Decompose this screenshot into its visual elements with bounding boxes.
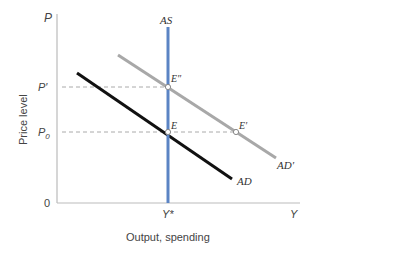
e-prime-label: E′ [238,120,248,131]
point-e-prime [233,129,238,134]
ad-as-diagram: P P′ P0 0 Y* Y Output, spending Price le… [0,0,408,254]
tick-y-star: Y* [162,208,174,220]
origin-label: 0 [44,197,50,209]
tick-p-prime: P′ [38,81,48,93]
ad-prime-curve [118,55,276,158]
y-axis-symbol: P [44,11,52,25]
tick-p0: P0 [38,126,50,141]
point-e [165,129,170,134]
as-label: AS [159,14,173,26]
x-axis-label: Output, spending [126,231,210,243]
x-axis-symbol: Y [290,208,298,220]
e-label: E [170,120,177,131]
e-double-prime-label: E″ [170,73,182,84]
point-e-double-prime [165,84,170,89]
ad-label: AD [236,175,252,187]
ad-curve [77,73,232,179]
ad-prime-label: AD′ [276,159,295,171]
y-axis-label: Price level [17,94,29,145]
